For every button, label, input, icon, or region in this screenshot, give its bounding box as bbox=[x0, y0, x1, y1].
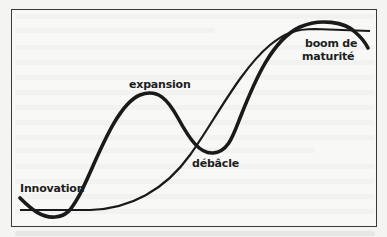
label-maturite: maturité bbox=[302, 51, 354, 63]
label-expansion: expansion bbox=[129, 79, 191, 91]
label-innovation: Innovation bbox=[20, 183, 84, 195]
label-boom-de: boom de bbox=[305, 38, 357, 50]
label-debacle: débâcle bbox=[192, 158, 239, 170]
cycle-curves bbox=[0, 0, 387, 237]
